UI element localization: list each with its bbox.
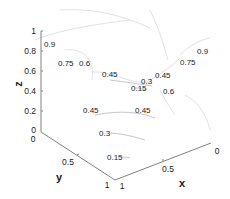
y-tick-labels: 0 0.5 1 [31, 134, 110, 190]
x-tick: 0.5 [162, 164, 174, 174]
contour-label: 0.45 [135, 106, 151, 115]
x-tick: 1 [120, 181, 125, 191]
z-tick: 1 [31, 26, 36, 36]
contour-label: 0.15 [131, 84, 147, 93]
z-tick: 0.8 [24, 46, 36, 56]
contour-line [150, 10, 168, 60]
contour-label: 0.9 [197, 47, 209, 56]
contour-line [110, 133, 145, 140]
z-tick: 0.6 [24, 66, 36, 76]
contour-label: 0.75 [180, 58, 196, 67]
contour3d-plot: 1 0.8 0.6 0.4 0.2 0 0 0.5 1 1 0.5 0 z y … [0, 0, 230, 199]
z-tick: 0.4 [24, 86, 36, 96]
z-tick-labels: 1 0.8 0.6 0.4 0.2 0 [24, 26, 36, 135]
contour-line [35, 20, 130, 40]
x-tick-labels: 1 0.5 0 [120, 146, 220, 191]
contour-label: 0.6 [79, 59, 91, 68]
x-axis-label: x [179, 177, 186, 189]
y-axis-label: y [56, 171, 63, 183]
contour-label: 0.3 [99, 129, 111, 138]
contour-label: 0.6 [163, 87, 175, 96]
z-axis-label: z [12, 81, 24, 87]
contour-label: 0.9 [44, 40, 56, 49]
contour-label: 0.45 [102, 70, 118, 79]
y-axis-line [41, 132, 115, 180]
contour-label: 0.75 [58, 59, 74, 68]
contour-line [185, 95, 210, 130]
contour-line [60, 10, 150, 28]
contour-lines [35, 10, 210, 158]
x-axis-line [115, 143, 211, 180]
contour-label: 0.15 [107, 153, 123, 162]
y-tick: 0.5 [62, 157, 74, 167]
contour-label: 0.45 [155, 71, 171, 80]
y-tick: 0 [31, 134, 36, 144]
y-tick: 1 [105, 180, 110, 190]
contour-label: 0.45 [83, 106, 99, 115]
contour-labels: 0.9 0.75 0.6 0.45 0.3 0.15 0.45 0.6 0.75… [44, 40, 209, 162]
z-tick: 0.2 [24, 106, 36, 116]
x-tick: 0 [215, 146, 220, 156]
